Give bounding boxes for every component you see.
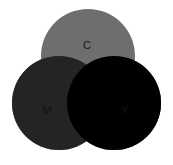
venn-diagram-figure: C M Y: [0, 0, 173, 165]
venn-label-m: M: [42, 104, 51, 116]
venn-label-y: Y: [121, 104, 129, 116]
venn-label-c: C: [83, 39, 91, 51]
venn-diagram-canvas: C M Y: [0, 0, 173, 165]
